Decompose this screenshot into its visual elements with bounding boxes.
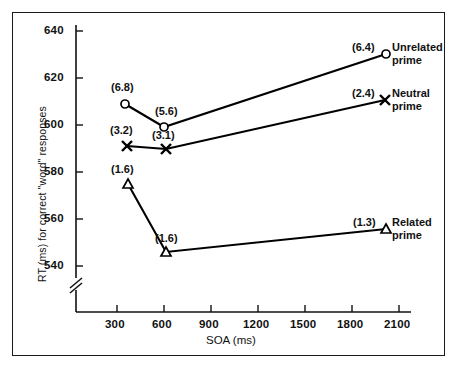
figure-container: 640 620 600 580 560 540 300 600 900 1200… bbox=[0, 0, 457, 368]
annotation-neutral-350: (3.2) bbox=[110, 124, 133, 136]
annotation-neutral-2000: (2.4) bbox=[352, 87, 375, 99]
y-tick-label-620: 620 bbox=[44, 71, 64, 83]
x-axis-ticks bbox=[117, 305, 399, 312]
chart-plot-area bbox=[0, 0, 457, 368]
x-tick-label-2100: 2100 bbox=[384, 318, 410, 330]
x-tick-label-900: 900 bbox=[199, 318, 219, 330]
x-tick-label-1500: 1500 bbox=[290, 318, 316, 330]
y-axis-title: RT (ms) for correct "word" responses bbox=[36, 106, 48, 282]
annotation-related-2000: (1.3) bbox=[353, 216, 376, 228]
x-tick-label-600: 600 bbox=[152, 318, 172, 330]
annotation-unrelated-600: (5.6) bbox=[155, 105, 178, 117]
legend-related-prime: Related prime bbox=[392, 216, 432, 242]
legend-related-line2: prime bbox=[392, 229, 422, 241]
annotation-unrelated-2000: (6.4) bbox=[352, 41, 375, 53]
legend-neutral-prime: Neutral prime bbox=[392, 87, 430, 113]
legend-unrelated-prime: Unrelated prime bbox=[392, 41, 443, 67]
marker-unrelated-350 bbox=[121, 100, 129, 108]
x-tick-label-300: 300 bbox=[105, 318, 125, 330]
annotation-unrelated-350: (6.8) bbox=[111, 81, 134, 93]
legend-related-line1: Related bbox=[392, 216, 432, 228]
x-axis-title: SOA (ms) bbox=[206, 334, 256, 346]
legend-neutral-line2: prime bbox=[392, 100, 422, 112]
legend-neutral-line1: Neutral bbox=[392, 87, 430, 99]
legend-unrelated-line1: Unrelated bbox=[392, 41, 443, 53]
annotation-related-350: (1.6) bbox=[111, 163, 134, 175]
marker-related-350 bbox=[123, 179, 133, 188]
legend-unrelated-line2: prime bbox=[392, 54, 422, 66]
annotation-related-600: (1.6) bbox=[155, 232, 178, 244]
x-tick-label-1200: 1200 bbox=[243, 318, 269, 330]
annotation-neutral-600: (3.1) bbox=[152, 129, 175, 141]
y-axis-ticks bbox=[76, 31, 83, 266]
x-tick-label-1800: 1800 bbox=[337, 318, 363, 330]
marker-unrelated-2000 bbox=[382, 50, 390, 58]
y-tick-label-640: 640 bbox=[44, 24, 64, 36]
